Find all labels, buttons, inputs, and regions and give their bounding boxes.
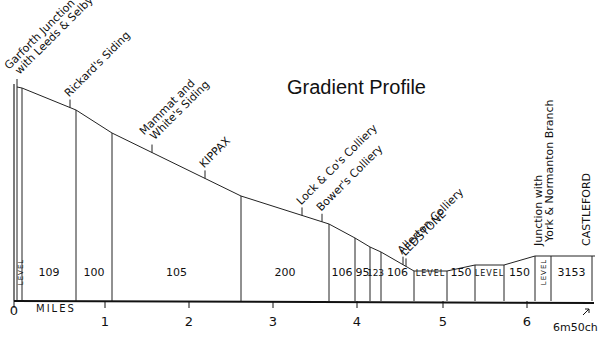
mile-tick-label: 5 [439,314,447,329]
mile-tick-label: 0 [10,303,18,318]
baseline [14,301,594,303]
svg-text:KIPPAX: KIPPAX [197,134,233,170]
mile-tick-label: 2 [185,314,193,329]
station-label: Rickard's Siding [62,29,133,100]
gradient-label: 150 [509,266,530,279]
station-labels: Garforth Junctionwith Leeds & SelbyRicka… [2,0,593,266]
gradient-label: 106 [387,266,408,279]
axis-end-label: 6m50ch [553,321,598,334]
axis-label: MILES [36,303,76,314]
station-label: KIPPAX [197,134,233,170]
profile-line [17,87,595,271]
gradient-label: 105 [166,266,187,279]
gradient-labels: LEVEL10910010520010695123106LEVEL150LEVE… [17,259,586,285]
gradient-label: 109 [39,266,60,279]
gradient-label: LEVEL [475,269,505,278]
miles-axis: 0123456MILES6m50ch [10,301,598,334]
gradient-profile-diagram: 0123456MILES6m50ch Garforth Junctionwith… [0,0,609,344]
station-label: CASTLEFORD [580,173,593,246]
gradient-label: LEVEL [17,259,25,285]
mile-tick-label: 6 [523,314,531,329]
station-label: LEDSTONE [398,208,449,259]
gradient-label: 106 [332,266,353,279]
svg-text:Rickard's Siding: Rickard's Siding [62,29,133,100]
gradient-label: 100 [84,266,105,279]
gradient-label: 200 [275,266,296,279]
arrow-icon [583,309,589,315]
svg-text:LEDSTONE: LEDSTONE [398,208,449,259]
gradient-label: LEVEL [540,259,548,285]
station-label: Mammat andWhite's Siding [137,70,212,145]
gradient-label: 3153 [558,266,586,279]
gradient-label: 150 [451,266,472,279]
mile-tick-label: 1 [101,314,109,329]
svg-text:CASTLEFORD: CASTLEFORD [580,173,593,246]
station-label: Junction withYork & Normanton Branch [532,99,556,247]
mile-tick-label: 4 [353,314,361,329]
svg-text:Garforth Junction: Garforth Junction [2,0,78,72]
gradient-label: LEVEL [416,269,446,278]
station-label: Garforth Junctionwith Leeds & Selby [2,0,96,80]
svg-text:York & Normanton Branch: York & Normanton Branch [543,99,556,243]
mile-tick-label: 3 [269,314,277,329]
gradient-label: 123 [367,268,384,278]
